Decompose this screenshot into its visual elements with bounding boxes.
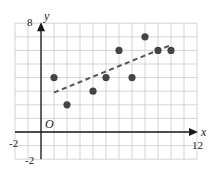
y-axis-label: y — [43, 9, 50, 23]
y-tick-label-minus-2: -2 — [25, 154, 34, 166]
trend-line — [54, 45, 171, 93]
x-axis-label: x — [200, 125, 207, 139]
grid — [15, 23, 197, 159]
data-point — [167, 47, 174, 54]
data-point — [154, 47, 161, 54]
origin-label: O — [45, 117, 54, 131]
data-point — [115, 47, 122, 54]
data-point — [141, 33, 148, 40]
axis-labels: y x O 8 -2 -2 12 — [9, 9, 207, 166]
axes — [15, 22, 198, 159]
data-point — [89, 88, 96, 95]
y-tick-label-8: 8 — [27, 16, 33, 28]
data-point — [102, 74, 109, 81]
data-point — [50, 74, 57, 81]
data-point — [128, 74, 135, 81]
data-points — [50, 33, 174, 108]
data-point — [63, 101, 70, 108]
x-tick-label-12: 12 — [192, 139, 203, 151]
scatter-plot: y x O 8 -2 -2 12 — [0, 0, 216, 171]
x-tick-label-minus-2: -2 — [9, 137, 18, 149]
